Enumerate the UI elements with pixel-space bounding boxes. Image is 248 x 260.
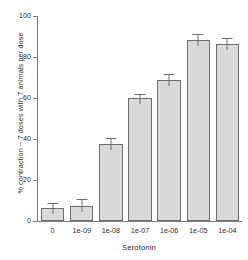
y-tick-mark	[33, 139, 37, 140]
bars-layer	[38, 16, 242, 221]
error-bar-cap-upper	[134, 94, 145, 95]
error-bar-stem	[110, 139, 111, 150]
error-bar-cap-upper	[222, 38, 233, 39]
error-bar-stem	[139, 95, 140, 104]
x-tick-label: 1e-05	[184, 227, 213, 234]
x-tick-label: 1e-09	[67, 227, 96, 234]
bar	[128, 98, 151, 221]
y-tick-label-text: 0	[5, 217, 31, 224]
y-tick-label-text: 60	[5, 94, 31, 101]
y-tick-label-text: 40	[5, 135, 31, 142]
bar-group	[70, 16, 93, 221]
y-tick-label: 20	[0, 176, 31, 184]
y-tick-label: 0	[0, 217, 31, 225]
y-tick-mark	[33, 98, 37, 99]
x-axis-line	[38, 221, 242, 222]
x-tick-label: 1e-07	[125, 227, 154, 234]
bar	[216, 44, 239, 221]
bar-group	[128, 16, 151, 221]
y-tick-label-text: 80	[5, 53, 31, 60]
bar	[187, 40, 210, 221]
y-axis-title: % contraction ~ 7 doses with 7 animals p…	[14, 8, 28, 218]
x-axis-title: Serotonin	[36, 243, 242, 252]
error-bar-stem	[227, 39, 228, 50]
y-tick-mark	[33, 16, 37, 17]
y-tick-label: 80	[0, 53, 31, 61]
error-bar-cap-upper	[164, 74, 175, 75]
y-tick-label: 60	[0, 94, 31, 102]
bar-group	[41, 16, 64, 221]
x-tick-label: 1e-08	[96, 227, 125, 234]
bar-group	[99, 16, 122, 221]
y-tick-mark	[33, 180, 37, 181]
bar-chart-figure: % contraction ~ 7 doses with 7 animals p…	[0, 0, 248, 260]
error-bar-stem	[169, 75, 170, 86]
x-tick-label: 0	[38, 227, 67, 234]
y-tick-label: 100	[0, 12, 31, 20]
x-tick-label: 1e-06	[155, 227, 184, 234]
bar-group	[157, 16, 180, 221]
bar-group	[216, 16, 239, 221]
error-bar-stem	[81, 200, 82, 211]
y-tick-label-text: 100	[5, 12, 31, 19]
y-tick-mark	[33, 221, 37, 222]
error-bar-cap-upper	[105, 138, 116, 139]
y-tick-label: 40	[0, 135, 31, 143]
x-tick-label: 1e-04	[213, 227, 242, 234]
error-bar-stem	[198, 35, 199, 46]
error-bar-stem	[52, 204, 53, 215]
y-tick-mark	[33, 57, 37, 58]
bar-group	[187, 16, 210, 221]
bar	[157, 80, 180, 221]
y-tick-label-text: 20	[5, 176, 31, 183]
bar	[99, 144, 122, 221]
error-bar-cap-upper	[47, 203, 58, 204]
error-bar-cap-upper	[76, 199, 87, 200]
error-bar-cap-upper	[193, 34, 204, 35]
